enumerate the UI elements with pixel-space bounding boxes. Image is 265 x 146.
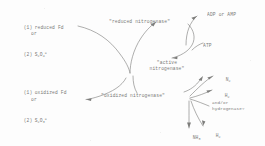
oxidant-item-2: (2)S2O3=	[12, 110, 47, 131]
oxidant-connector: or	[31, 97, 37, 103]
arrow-atp-input	[192, 43, 203, 50]
reductant-item-1: (1)reduced Fd	[12, 19, 64, 37]
arrow-active-to-oxidized	[184, 76, 203, 92]
scan-speck	[90, 140, 91, 141]
label-h2-upper-subscript: 2	[228, 95, 230, 99]
arrow-cycle-lower-stem	[133, 76, 137, 93]
state-oxidized-nitrogenase: "oxidized nitrogenase"	[101, 93, 165, 99]
reductant-connector: or	[31, 31, 37, 37]
oxidant-item-1-label: oxidized Fd	[35, 90, 67, 95]
state-reduced-nitrogenase: "reduced nitrogenase"	[109, 19, 170, 25]
oxidant-item-2-charge: =	[45, 117, 47, 121]
arrow-h2-bottom-output	[191, 101, 205, 126]
label-h2-bottom: H2	[204, 127, 221, 146]
note-hydrogenase-line-2: hydrogenase?	[212, 106, 245, 112]
diagram-canvas: (1)reduced Fd or (2)S2O4= (1)oxidized Fd…	[0, 0, 265, 146]
scan-speck	[250, 60, 251, 61]
oxidant-item-1: (1)oxidized Fd	[12, 84, 67, 102]
oxidant-item-1-number: (1)	[24, 90, 35, 96]
arrow-to-adp-amp	[186, 16, 197, 45]
oxidant-item-2-number: (2)	[24, 118, 35, 124]
reductant-item-2: (2)S2O4=	[12, 44, 47, 65]
arrow-to-hydrogenase-note	[190, 99, 209, 106]
reductant-item-2-charge: =	[45, 51, 47, 55]
label-adp-or-amp: ADP or AMP	[207, 12, 236, 18]
label-nh3-subscript: 3	[198, 137, 200, 141]
scan-speck	[44, 8, 45, 9]
reductant-item-1-label: reduced Fd	[35, 25, 64, 30]
label-n2-subscript: 2	[229, 79, 231, 83]
arrow-nh3-output	[187, 101, 191, 128]
label-atp: ATP	[203, 43, 212, 49]
scan-speck	[160, 132, 161, 133]
reductant-item-2-number: (2)	[24, 52, 35, 58]
state-active-nitrogenase-line-2: nitrogenase"	[145, 66, 189, 72]
label-nh3: NH3	[181, 129, 201, 146]
label-h2-bottom-subscript: 2	[219, 135, 221, 139]
arrow-reduced-to-active	[172, 24, 194, 59]
arrow-h2-upper	[190, 90, 212, 98]
